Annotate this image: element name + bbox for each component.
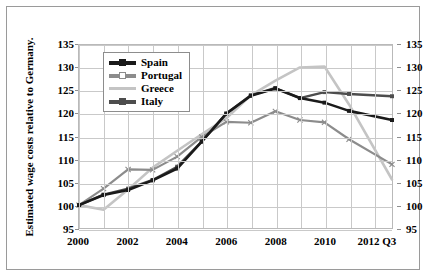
y-axis-tick-mark-right xyxy=(397,137,401,138)
y-axis-tick-label-right: 130 xyxy=(406,62,423,73)
y-axis-tick-label-right: 135 xyxy=(406,39,423,50)
legend-swatch-icon xyxy=(109,83,136,94)
x-axis-labels: 2000200220042006200820102012 Q3 xyxy=(78,235,393,251)
gridline-horizontal xyxy=(79,138,392,139)
y-axis-tick-label-right: 95 xyxy=(406,224,417,235)
x-axis-tick-label: 2008 xyxy=(265,235,287,247)
y-axis-tick-label-right: 110 xyxy=(406,155,422,166)
x-axis-tick-label: 2012 Q3 xyxy=(358,235,397,247)
y-axis-tick-label-right: 115 xyxy=(406,132,422,143)
chart-legend: SpainPortugalGreeceItaly xyxy=(103,52,190,112)
gridline-vertical xyxy=(79,45,80,228)
y-axis-tick-label-left: 105 xyxy=(58,178,75,189)
legend-item-italy: Italy xyxy=(109,95,182,108)
y-axis-tick-label-right: 125 xyxy=(406,85,423,96)
gridline-horizontal xyxy=(79,161,392,162)
y-axis-tick-label-right: 120 xyxy=(406,108,423,119)
y-axis-tick-label-left: 120 xyxy=(58,108,75,119)
legend-swatch-icon xyxy=(109,57,136,68)
y-axis-tick-label-left: 110 xyxy=(58,155,74,166)
gridline-vertical xyxy=(326,45,327,228)
data-point-marker xyxy=(390,118,394,122)
x-axis-tick-label: 2002 xyxy=(116,235,138,247)
y-axis-tick-label-left: 130 xyxy=(58,62,75,73)
chart-frame: Estimated wage costs relative to Germany… xyxy=(6,6,420,270)
gridline-horizontal xyxy=(79,184,392,185)
data-point-marker xyxy=(390,94,394,98)
legend-item-portugal: Portugal xyxy=(109,69,182,82)
y-axis-right-labels: 13513012512011511010510095 xyxy=(397,44,428,229)
gridline-vertical xyxy=(203,45,204,228)
y-axis-tick-mark-right xyxy=(397,206,401,207)
y-axis-left-labels: 13513012512011511010510095 xyxy=(43,44,74,229)
legend-label: Portugal xyxy=(141,70,182,81)
y-axis-tick-label-left: 95 xyxy=(63,224,74,235)
y-axis-tick-mark-right xyxy=(397,183,401,184)
gridline-vertical xyxy=(301,45,302,228)
legend-label: Greece xyxy=(141,83,174,94)
y-axis-tick-mark-right xyxy=(397,44,401,45)
legend-label: Italy xyxy=(141,96,163,107)
y-axis-tick-label-left: 125 xyxy=(58,85,75,96)
legend-label: Spain xyxy=(141,57,168,68)
x-axis-tick-label: 2006 xyxy=(215,235,237,247)
y-axis-title-text: Estimated wage costs relative to Germany… xyxy=(23,37,35,236)
gridline-vertical xyxy=(227,45,228,228)
gridline-vertical xyxy=(252,45,253,228)
gridline-horizontal xyxy=(79,45,392,46)
y-axis-tick-mark-right xyxy=(397,160,401,161)
y-axis-tick-label-left: 135 xyxy=(58,39,75,50)
y-axis-tick-mark-right xyxy=(397,113,401,114)
y-axis-title: Estimated wage costs relative to Germany… xyxy=(21,44,37,229)
y-axis-tick-mark-right xyxy=(397,90,401,91)
legend-swatch-icon xyxy=(109,70,136,81)
legend-swatch-icon xyxy=(109,96,136,107)
legend-item-spain: Spain xyxy=(109,56,182,69)
x-axis-tick-label: 2010 xyxy=(314,235,336,247)
legend-item-greece: Greece xyxy=(109,82,182,95)
y-axis-tick-mark-right xyxy=(397,229,401,230)
y-axis-tick-label-right: 100 xyxy=(406,201,423,212)
gridline-horizontal xyxy=(79,230,392,231)
y-axis-tick-mark-right xyxy=(397,67,401,68)
y-axis-tick-label-left: 100 xyxy=(58,201,75,212)
y-axis-tick-label-left: 115 xyxy=(58,132,74,143)
gridline-vertical xyxy=(277,45,278,228)
gridline-vertical xyxy=(375,45,376,228)
gridline-horizontal xyxy=(79,114,392,115)
gridline-horizontal xyxy=(79,207,392,208)
x-axis-tick-label: 2004 xyxy=(166,235,188,247)
gridline-vertical xyxy=(351,45,352,228)
x-axis-tick-label: 2000 xyxy=(67,235,89,247)
y-axis-tick-label-right: 105 xyxy=(406,178,423,189)
